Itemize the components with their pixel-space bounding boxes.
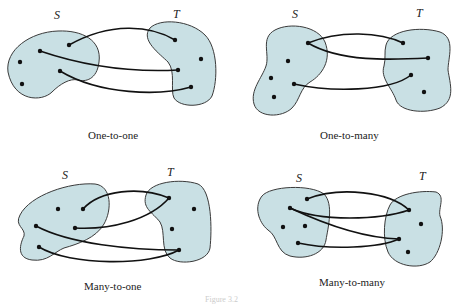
set-label-s: S <box>54 8 60 22</box>
set-s-region <box>18 184 109 260</box>
panel-many-to-one: S T Many-to-one <box>18 165 211 292</box>
set-label-t: T <box>167 165 175 179</box>
set-label-t: T <box>173 7 181 21</box>
set-s-region <box>8 31 100 98</box>
panel-caption: Many-to-many <box>319 276 385 288</box>
panel-one-to-one: S T One-to-one <box>8 7 216 141</box>
set-t-region <box>384 192 442 267</box>
figure-caption: Figure 3.2 <box>205 295 238 304</box>
panel-many-to-many: S T Many-to-many <box>258 169 443 288</box>
set-t-region <box>383 29 451 111</box>
set-label-s: S <box>296 171 302 185</box>
panel-caption: Many-to-one <box>84 280 142 292</box>
set-label-t: T <box>416 6 424 20</box>
panel-caption: One-to-one <box>88 129 138 141</box>
set-label-s: S <box>62 168 68 182</box>
panel-one-to-many: S T One-to-many <box>253 6 451 141</box>
relation-types-figure: S T One-to-one S T <box>0 0 457 304</box>
panel-caption: One-to-many <box>320 129 379 141</box>
set-label-t: T <box>419 169 427 183</box>
set-label-s: S <box>292 7 298 21</box>
